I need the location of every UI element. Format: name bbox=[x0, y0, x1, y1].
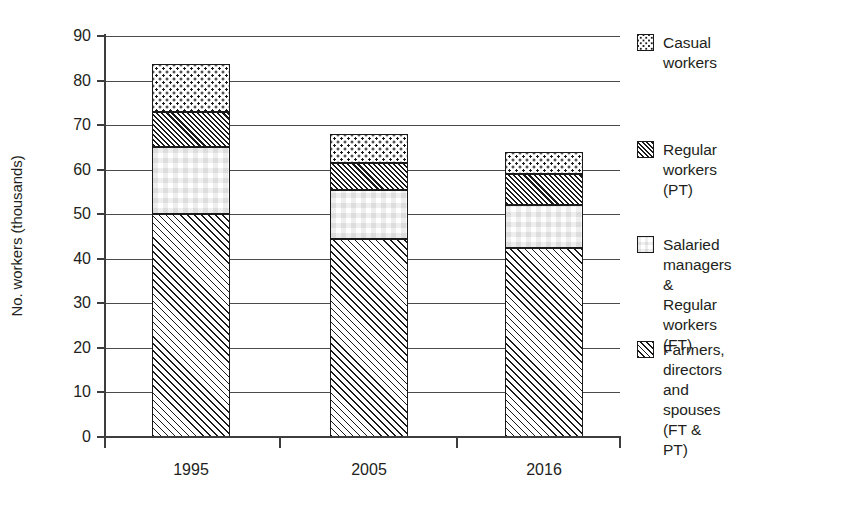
y-tick-label-40: 40 bbox=[35, 251, 91, 267]
y-tick-label-wrap-0: 0 bbox=[35, 429, 91, 445]
bar-segment bbox=[152, 64, 230, 112]
legend-item[interactable]: Regular workers (PT) bbox=[637, 140, 717, 200]
y-tick-label-wrap-10: 10 bbox=[35, 384, 91, 400]
bar-segment bbox=[330, 190, 408, 239]
legend-item-label: Farmers, directors and spouses (FT & PT) bbox=[663, 340, 725, 460]
y-tick-label-wrap-60: 60 bbox=[35, 162, 91, 178]
bar-segment bbox=[505, 205, 583, 247]
x-tick-mark bbox=[279, 437, 281, 448]
x-tick-label-2005: 2005 bbox=[309, 462, 429, 478]
bar-segment bbox=[505, 248, 583, 437]
x-axis-line bbox=[104, 436, 621, 438]
x-tick-label-1995: 1995 bbox=[131, 462, 251, 478]
y-tick-label-50: 50 bbox=[35, 206, 91, 222]
y-axis-title: No. workers (thousands) bbox=[1, 36, 31, 437]
bar-segment bbox=[152, 214, 230, 437]
y-tick-label-wrap-30: 30 bbox=[35, 295, 91, 311]
y-tick-label-wrap-90: 90 bbox=[35, 28, 91, 44]
bar-segment bbox=[505, 174, 583, 205]
light-diagonal-hatch-swatch-icon bbox=[637, 341, 654, 358]
bar-segment bbox=[330, 163, 408, 190]
stacked-bar-chart: No. workers (thousands) 9080706050403020… bbox=[0, 0, 860, 512]
y-tick-label-wrap-80: 80 bbox=[35, 73, 91, 89]
x-tick-mark bbox=[456, 437, 458, 448]
y-tick-label-0: 0 bbox=[35, 429, 91, 445]
legend-item-label: Casual workers bbox=[663, 33, 717, 73]
gridline-90 bbox=[105, 36, 620, 37]
legend-item-label: Salaried managers & Regular workers (FT) bbox=[663, 235, 732, 355]
dense-diagonal-hatch-swatch-icon bbox=[637, 141, 654, 158]
legend-item-label: Regular workers (PT) bbox=[663, 140, 717, 200]
bar-segment bbox=[152, 147, 230, 214]
y-tick-label-60: 60 bbox=[35, 162, 91, 178]
y-axis-line bbox=[104, 34, 106, 439]
legend-item[interactable]: Salaried managers & Regular workers (FT) bbox=[637, 235, 732, 355]
y-tick-label-10: 10 bbox=[35, 384, 91, 400]
y-tick-label-20: 20 bbox=[35, 340, 91, 356]
y-tick-label-70: 70 bbox=[35, 117, 91, 133]
legend-item[interactable]: Farmers, directors and spouses (FT & PT) bbox=[637, 340, 725, 460]
y-tick-label-30: 30 bbox=[35, 295, 91, 311]
x-tick-mark bbox=[619, 437, 621, 448]
legend-item[interactable]: Casual workers bbox=[637, 33, 717, 73]
y-tick-label-80: 80 bbox=[35, 73, 91, 89]
y-tick-label-90: 90 bbox=[35, 28, 91, 44]
checkerboard-swatch-icon bbox=[637, 236, 654, 253]
y-tick-label-wrap-50: 50 bbox=[35, 206, 91, 222]
x-tick-mark bbox=[104, 437, 106, 448]
y-tick-label-wrap-40: 40 bbox=[35, 251, 91, 267]
bar-segment bbox=[330, 239, 408, 437]
plot-area bbox=[105, 36, 620, 437]
x-tick-label-2016: 2016 bbox=[484, 462, 604, 478]
y-tick-label-wrap-70: 70 bbox=[35, 117, 91, 133]
bar-segment bbox=[505, 152, 583, 174]
dotted-grid-swatch-icon bbox=[637, 34, 654, 51]
bar-segment bbox=[152, 112, 230, 148]
y-tick-label-wrap-20: 20 bbox=[35, 340, 91, 356]
bar-segment bbox=[330, 134, 408, 163]
